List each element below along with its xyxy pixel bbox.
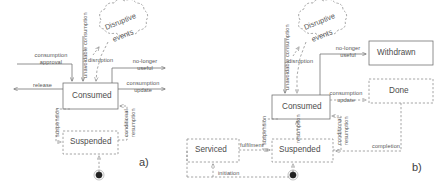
- edge-label-no-longer-useful-line2-b: useful: [327, 52, 369, 58]
- edge-label-disruption-a: disruption: [88, 57, 113, 63]
- edge-disruption-b: [297, 42, 306, 93]
- edge-label-conditional-resumption-line2-b: resumption: [343, 116, 349, 145]
- state-label-serviced-b: Serviced: [195, 145, 227, 154]
- edge-consumption-approval-a: [17, 64, 72, 81]
- edge-label-no-longer-useful-line2-a: useful: [124, 65, 166, 71]
- edge-label-conditional-resumption-line1-b: conditional: [336, 117, 342, 145]
- edge-label-consumption-update-line1-a: consumption: [120, 80, 166, 86]
- edge-cloud-feedback-a: [93, 47, 99, 55]
- state-label-withdrawn-b: Withdrawn: [377, 48, 416, 57]
- edge-label-disruption-b: disruption: [288, 58, 313, 64]
- edge-label-no-longer-useful-line1-b: no-longer: [327, 45, 369, 51]
- edge-label-consumption-update-line2-a: update: [120, 87, 166, 93]
- panel-caption-a: a): [139, 156, 149, 168]
- edge-label-suspension-a: suspension: [54, 108, 60, 137]
- edge-label-fulfilment-b: fulfilment: [240, 142, 263, 148]
- edge-label-completion-b: completion: [372, 143, 400, 149]
- initial-node-a: [96, 172, 102, 178]
- state-label-done-b: Done: [389, 86, 409, 95]
- edge-cloud-feedback-b: [293, 47, 299, 56]
- edge-label-no-longer-useful-line1-a: no-longer: [124, 58, 166, 64]
- edge-label-consumption-approval-line2-a: approval: [22, 59, 80, 65]
- edge-label-unavoidable-consumption-a: unavoidable consumption: [82, 12, 88, 78]
- edge-label-consumption-update-line2-b: update: [324, 97, 368, 103]
- edge-no-longer-useful-b: [320, 54, 366, 95]
- edge-label-resumption-b: resumption: [295, 114, 301, 143]
- state-label-suspended-a: Suspended: [70, 137, 111, 146]
- figure-canvas: Consumed Suspended Disruptive events con…: [0, 0, 445, 187]
- edge-label-initiation-b: initiation: [218, 170, 240, 176]
- panel-caption-b: b): [412, 161, 422, 173]
- edge-label-conditional-resumption-line2-a: resumption: [130, 108, 136, 137]
- edge-initiation-b: [187, 150, 213, 177]
- edge-label-suspension-b: suspension: [261, 116, 267, 145]
- initial-node-b: [290, 172, 296, 178]
- state-label-consumed-b: Consumed: [282, 102, 322, 111]
- edge-label-release-a: release: [33, 82, 52, 88]
- edge-label-conditional-resumption-line1-a: conditional: [123, 109, 129, 137]
- state-label-consumed-a: Consumed: [72, 91, 112, 100]
- edge-label-consumption-approval-line1-a: consumption: [22, 52, 80, 58]
- state-label-suspended-b: Suspended: [279, 145, 320, 154]
- edge-label-consumption-update-line1-b: consumption: [324, 90, 368, 96]
- diagram-vector-layer: [0, 0, 445, 187]
